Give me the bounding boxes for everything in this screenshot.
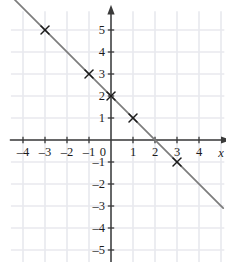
graph-canvas: –4–3–2–1123454321–1–2–3–4–50 x [0, 0, 226, 278]
y-axis-arrowhead-icon [107, 5, 114, 15]
x-axis-tick-label: 1 [130, 145, 136, 159]
y-axis-tick-label: 2 [99, 89, 105, 103]
y-axis-tick-label: 3 [99, 67, 105, 81]
y-axis-tick-label: 5 [99, 23, 105, 37]
y-axis-tick-label: –4 [92, 221, 106, 235]
x-axis-arrowhead-icon [221, 136, 226, 143]
x-axis-tick-label: –4 [16, 145, 30, 159]
y-axis-tick-label: –3 [92, 199, 106, 213]
coordinate-plane-figure: –4–3–2–1123454321–1–2–3–4–50 x [0, 0, 226, 278]
x-axis-tick-label: 3 [174, 145, 180, 159]
axis-name-labels: x [217, 146, 224, 160]
grid-lines [11, 11, 224, 262]
x-axis-tick-label: 2 [152, 145, 158, 159]
x-axis-label: x [217, 146, 224, 160]
origin-label: 0 [100, 145, 106, 159]
x-axis-tick-label: 4 [196, 145, 203, 159]
axis-lines [10, 5, 226, 262]
x-axis-tick-label: –3 [38, 145, 52, 159]
x-axis-tick-label: –2 [60, 145, 74, 159]
y-axis-tick-label: –5 [92, 243, 106, 257]
y-axis-tick-label: –2 [92, 177, 106, 191]
y-axis-tick-label: 1 [99, 111, 105, 125]
y-axis-tick-label: 4 [99, 45, 106, 59]
